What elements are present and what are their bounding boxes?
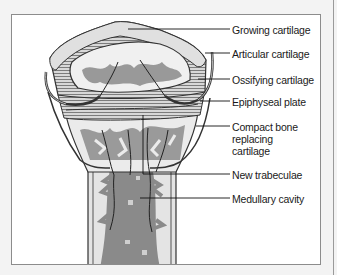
label-compact-bone-line1: Compact bone <box>232 121 298 133</box>
label-medullary-cavity: Medullary cavity <box>232 193 304 205</box>
label-new-trabeculae: New trabeculae <box>232 169 302 181</box>
label-compact-bone-line2: replacing <box>232 133 298 145</box>
label-compact-bone-line3: cartilage <box>232 145 298 157</box>
label-ossifying-cartilage: Ossifying cartilage <box>232 74 314 86</box>
label-compact-bone: Compact bone replacing cartilage <box>232 121 298 157</box>
label-articular-cartilage: Articular cartilage <box>232 48 309 60</box>
label-growing-cartilage: Growing cartilage <box>232 24 310 36</box>
label-epiphyseal-plate: Epiphyseal plate <box>232 96 306 108</box>
